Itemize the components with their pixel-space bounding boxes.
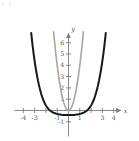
y-tick-label: 5: [60, 50, 64, 57]
x-tick-label: 4: [112, 114, 116, 121]
y-tick-label: 3: [60, 73, 64, 80]
x-tick-label: 3: [100, 114, 104, 121]
x-tick-label: -4: [20, 114, 26, 121]
graph-figure: ( ) -4-3-1134-1123456xy: [0, 0, 139, 141]
y-tick-label: 6: [60, 39, 64, 46]
x-axis-label: x: [124, 107, 128, 115]
coordinate-plot: -4-3-1134-1123456xy: [0, 0, 139, 141]
y-tick-label: 4: [60, 61, 64, 68]
y-axis-label: y: [70, 25, 75, 33]
y-tick-label: -1: [58, 118, 64, 125]
x-tick-label: -3: [32, 114, 38, 121]
axes: [14, 33, 121, 136]
